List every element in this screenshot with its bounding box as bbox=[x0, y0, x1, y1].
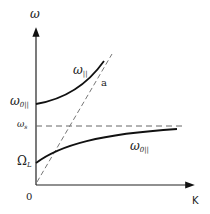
upper-curve-sub: || bbox=[83, 70, 88, 78]
omega0-tick-label: ω0|| bbox=[10, 95, 29, 109]
omegas-sub: s bbox=[24, 123, 27, 130]
omega0-main: ω bbox=[10, 94, 20, 108]
x-axis-label: K bbox=[192, 196, 199, 206]
lower-branch-curve bbox=[36, 129, 177, 163]
OmegaL-main: Ω bbox=[17, 154, 27, 168]
upper-branch-curve bbox=[36, 61, 104, 104]
lower-curve-sub: 0|| bbox=[140, 146, 149, 154]
line-a-label: a bbox=[101, 78, 107, 88]
y-axis-label: ω bbox=[30, 8, 40, 20]
origin-label: 0 bbox=[26, 192, 32, 202]
omegas-tick-label: ωs bbox=[17, 120, 27, 130]
lower-curve-main: ω bbox=[130, 139, 140, 153]
OmegaL-sub: L bbox=[27, 161, 32, 169]
lower-curve-label: ω0|| bbox=[130, 140, 149, 154]
upper-curve-main: ω bbox=[73, 63, 83, 77]
OmegaL-tick-label: ΩL bbox=[17, 155, 32, 169]
omega0-sub: 0|| bbox=[20, 101, 29, 109]
dispersion-chart bbox=[0, 0, 210, 214]
upper-curve-label: ω|| bbox=[73, 64, 88, 78]
